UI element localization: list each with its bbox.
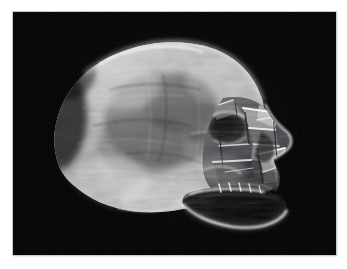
screenshot-root bbox=[0, 0, 347, 269]
photo-frame bbox=[13, 12, 336, 255]
crystal-skull-image bbox=[13, 12, 336, 255]
crystal-skull-artwork bbox=[13, 12, 336, 255]
photo-canvas bbox=[13, 12, 336, 255]
